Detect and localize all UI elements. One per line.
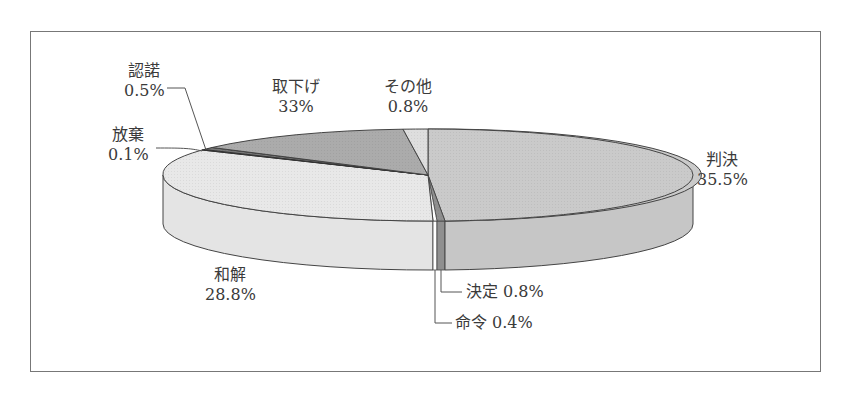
label-houki: 放棄 0.1% bbox=[108, 125, 149, 165]
slice-meirei-side bbox=[433, 221, 437, 270]
label-kettei: 決定 0.8% bbox=[466, 282, 544, 302]
label-sonota-pct: 0.8% bbox=[384, 97, 432, 117]
label-hanketsu-name: 判決 bbox=[697, 150, 748, 170]
leader-kettei bbox=[441, 270, 462, 292]
label-houki-pct: 0.1% bbox=[108, 145, 149, 165]
label-hanketsu: 判決 35.5% bbox=[697, 150, 748, 190]
leader-ninaku bbox=[167, 88, 206, 150]
label-torisage: 取下げ 33% bbox=[272, 77, 320, 117]
slice-kettei-side bbox=[437, 221, 445, 270]
label-ninaku: 認諾 0.5% bbox=[124, 61, 165, 101]
label-sonota: その他 0.8% bbox=[384, 77, 432, 117]
label-wakai-name: 和解 bbox=[205, 265, 256, 285]
label-ninaku-name: 認諾 bbox=[124, 61, 165, 81]
label-houki-name: 放棄 bbox=[108, 125, 149, 145]
texture-overlay bbox=[163, 129, 693, 221]
leader-houki bbox=[156, 148, 202, 151]
label-ninaku-pct: 0.5% bbox=[124, 81, 165, 101]
label-wakai-pct: 28.8% bbox=[205, 285, 256, 305]
label-torisage-pct: 33% bbox=[272, 97, 320, 117]
label-wakai: 和解 28.8% bbox=[205, 265, 256, 305]
label-sonota-name: その他 bbox=[384, 77, 432, 97]
label-meirei: 命令 0.4% bbox=[455, 313, 533, 333]
label-hanketsu-pct: 35.5% bbox=[697, 170, 748, 190]
label-torisage-name: 取下げ bbox=[272, 77, 320, 97]
leader-meirei bbox=[435, 270, 452, 323]
